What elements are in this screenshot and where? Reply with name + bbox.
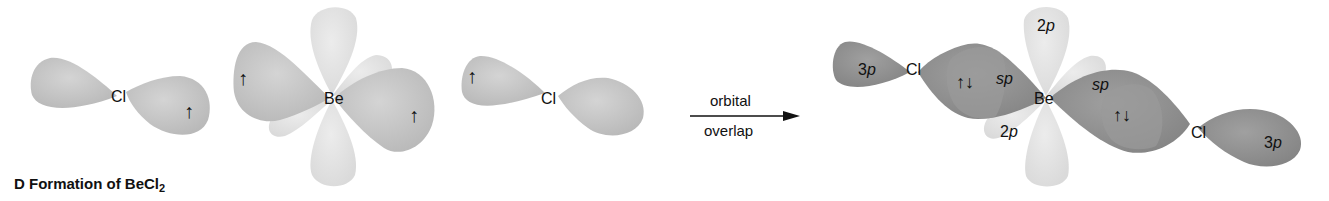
be-atom-label-bonded: Be bbox=[1034, 90, 1054, 107]
caption-text: D Formation of BeCl bbox=[14, 175, 159, 192]
cl-right-atom-label: Cl bbox=[541, 90, 556, 107]
be-electron-arrow-left: ↑ bbox=[238, 67, 248, 89]
caption-subscript: 2 bbox=[159, 182, 165, 194]
cl-left-atom: Cl ↑ bbox=[31, 58, 210, 135]
be-electron-arrow-right: ↑ bbox=[409, 104, 419, 126]
cl-right-3p-letter: p bbox=[1272, 134, 1282, 151]
cl-left-3p-letter: p bbox=[866, 61, 876, 78]
cl-left-atom-label-bonded: Cl bbox=[906, 61, 921, 78]
right-sp-label: sp bbox=[1092, 76, 1109, 93]
cl-right-electron-arrow: ↑ bbox=[467, 65, 477, 87]
be-atom-label: Be bbox=[324, 90, 344, 107]
cl-right-atom-label-bonded: Cl bbox=[1191, 124, 1206, 141]
left-sp-label: sp bbox=[996, 70, 1013, 87]
cl-right-3p-label: 3p bbox=[1264, 134, 1282, 151]
arrow-label-bottom: overlap bbox=[704, 122, 753, 139]
cl-left-lobe-right bbox=[126, 76, 210, 135]
be-2p-top-label: 2p bbox=[1037, 17, 1055, 34]
cl-right-atom: Cl ↑ bbox=[462, 56, 644, 135]
be-atom-unhybridized: Be ↑ ↑ bbox=[234, 7, 435, 186]
cl-right-lobe-right bbox=[558, 78, 644, 136]
be-2p-bottom-digit: 2 bbox=[1000, 123, 1009, 140]
arrow-head-icon bbox=[783, 111, 800, 121]
cl-left-3p-digit: 3 bbox=[858, 61, 867, 78]
reaction-arrow: orbital overlap bbox=[690, 92, 800, 139]
arrow-label-top: orbital bbox=[710, 92, 751, 109]
right-bond-electron-pair: ↑↓ bbox=[1113, 105, 1131, 125]
cl-left-lobe-left bbox=[31, 58, 117, 108]
cl-right-3p-lobe bbox=[1198, 109, 1301, 167]
be-2p-bottom-label: 2p bbox=[1000, 123, 1018, 140]
cl-left-3p-label: 3p bbox=[858, 61, 876, 78]
be-2p-top-digit: 2 bbox=[1037, 17, 1046, 34]
becl2-formation-diagram: Cl ↑ Be ↑ ↑ Cl ↑ orbital overlap bbox=[0, 0, 1329, 201]
becl2-molecule: 3p Cl ↑↓ sp Be 2p 2p sp ↑↓ Cl 3p bbox=[833, 7, 1301, 187]
figure-caption: D Formation of BeCl2 bbox=[14, 175, 165, 194]
cl-left-electron-arrow: ↑ bbox=[184, 100, 194, 122]
be-2p-bottom-letter: p bbox=[1008, 123, 1018, 140]
cl-left-atom-label: Cl bbox=[111, 88, 126, 105]
be-2p-top-letter: p bbox=[1045, 17, 1055, 34]
left-bond-electron-pair: ↑↓ bbox=[956, 72, 974, 92]
cl-right-3p-digit: 3 bbox=[1264, 134, 1273, 151]
